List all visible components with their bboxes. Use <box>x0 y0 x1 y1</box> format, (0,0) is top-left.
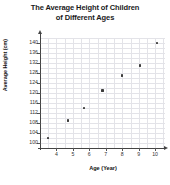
x-axis-tick-label: 7 <box>99 152 113 157</box>
x-axis-tick-label: 9 <box>132 152 146 157</box>
gridline-vertical <box>56 38 57 148</box>
plot-area <box>40 38 165 148</box>
gridline-vertical <box>147 38 148 148</box>
x-axis-tick-label: 5 <box>66 152 80 157</box>
gridline-vertical <box>106 38 107 148</box>
gridline-vertical <box>89 38 90 148</box>
y-axis-label: Average Height (cm) <box>2 34 8 96</box>
y-axis-tick-label: 120 <box>18 90 38 95</box>
y-axis-tick-label: 104 <box>18 130 38 135</box>
x-axis-label: Age (Year) <box>40 165 166 171</box>
x-axis-tick-label: 8 <box>115 152 129 157</box>
gridline-vertical <box>98 38 99 148</box>
y-axis-tick-label: 100 <box>18 140 38 145</box>
y-axis-tick-label: 116 <box>18 100 38 105</box>
x-axis-tick-label: 10 <box>148 152 162 157</box>
gridline-vertical <box>48 38 49 148</box>
x-axis-tick-label: 6 <box>82 152 96 157</box>
x-axis-tick-label: 4 <box>49 152 63 157</box>
y-axis-tick-label: 124 <box>18 80 38 85</box>
y-axis-tick-label: 128 <box>18 70 38 75</box>
chart-title-line-2: of Different Ages <box>0 13 170 23</box>
gridline-vertical <box>155 38 156 148</box>
gridline-vertical <box>163 38 164 148</box>
y-axis-tick-label: 132 <box>18 60 38 65</box>
gridline-vertical <box>65 38 66 148</box>
gridline-vertical <box>81 38 82 148</box>
gridline-vertical <box>73 38 74 148</box>
data-point <box>139 64 141 67</box>
x-axis-arrow-icon <box>164 146 168 150</box>
y-axis-tick-label: 136 <box>18 50 38 55</box>
gridline-vertical <box>114 38 115 148</box>
gridline-vertical <box>139 38 140 148</box>
gridline-vertical <box>131 38 132 148</box>
data-point <box>67 119 69 122</box>
chart-title-line-1: The Average Height of Children <box>0 3 170 13</box>
data-point <box>101 89 103 92</box>
y-axis-tick-label: 140 <box>18 40 38 45</box>
chart-title: The Average Height of Children of Differ… <box>0 3 170 22</box>
y-axis-tick-label: 108 <box>18 120 38 125</box>
y-axis-tick-label: 112 <box>18 110 38 115</box>
y-axis-arrow-icon <box>38 30 42 34</box>
chart-container: The Average Height of Children of Differ… <box>0 0 170 185</box>
gridline-vertical <box>122 38 123 148</box>
